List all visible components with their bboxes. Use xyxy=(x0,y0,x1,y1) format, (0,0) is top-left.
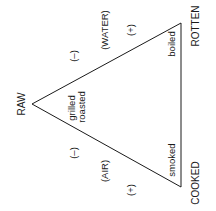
roasted-label: roasted xyxy=(77,91,87,123)
vertex-rotten-label: ROTTEN xyxy=(191,5,201,46)
vertex-raw-label: RAW xyxy=(17,93,27,116)
water-medium-label: (WATER) xyxy=(100,10,110,50)
water-minus-sign: (–) xyxy=(69,50,79,62)
air-minus-sign: (–) xyxy=(69,147,79,159)
water-plus-sign: (+) xyxy=(126,24,136,36)
air-plus-sign: (+) xyxy=(126,184,136,196)
smoked-label: smoked xyxy=(167,143,177,176)
culinary-triangle-diagram: RAW ROTTEN COOKED (–) (WATER) (+) (–) (A… xyxy=(0,0,216,211)
boiled-label: boiled xyxy=(167,31,177,56)
air-medium-label: (AIR) xyxy=(100,160,110,182)
vertex-cooked-label: COOKED xyxy=(191,161,201,204)
